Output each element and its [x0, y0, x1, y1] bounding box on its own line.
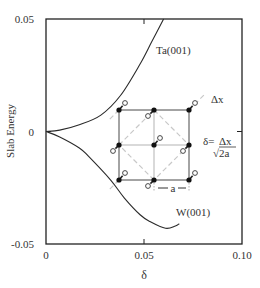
lattice-atom	[151, 142, 156, 147]
dx-label: Δx	[211, 93, 224, 105]
formula-numerator: Δx	[219, 135, 232, 147]
plot-frame	[46, 19, 242, 244]
formula-denominator: √2a	[213, 147, 230, 159]
lattice-atom	[151, 177, 156, 182]
x-tick-labels: 00.050.10	[43, 249, 252, 261]
y-tick-label: 0	[29, 126, 35, 138]
displaced-atom	[181, 149, 186, 154]
x-axis-label: δ	[141, 268, 147, 282]
y-tick-label: -0.05	[11, 238, 34, 250]
lattice-atom	[186, 177, 191, 182]
displaced-atom	[146, 114, 151, 119]
lattice-atom	[186, 107, 191, 112]
displaced-atom	[123, 101, 128, 106]
lattice-atom	[116, 142, 121, 147]
displaced-atom	[193, 101, 198, 106]
axis-ticks	[46, 19, 242, 244]
displaced-atom	[193, 171, 198, 176]
displaced-atom	[158, 136, 163, 141]
slab-energy-chart: 00.050.10 0.050-0.05 δ Slab Energy Ta(00…	[0, 0, 260, 288]
lattice-atom	[116, 177, 121, 182]
x-tick-label: 0	[43, 249, 49, 261]
lattice-inset: a Δx δ= Δx √2a	[108, 93, 236, 194]
lattice-atom	[151, 107, 156, 112]
x-tick-label: 0.05	[134, 249, 154, 261]
lattice-atom	[116, 107, 121, 112]
ta-series-label: Ta(001)	[156, 44, 191, 57]
displaced-atom	[111, 149, 116, 154]
a-label: a	[171, 182, 176, 194]
displaced-atom	[146, 184, 151, 189]
displaced-atom	[123, 171, 128, 176]
y-axis-label: Slab Energy	[4, 104, 16, 158]
w-series-label: W(001)	[176, 206, 211, 219]
formula-lhs: δ=	[203, 135, 214, 147]
x-tick-label: 0.10	[232, 249, 252, 261]
y-tick-label: 0.05	[15, 13, 35, 25]
lattice-atom	[186, 142, 191, 147]
